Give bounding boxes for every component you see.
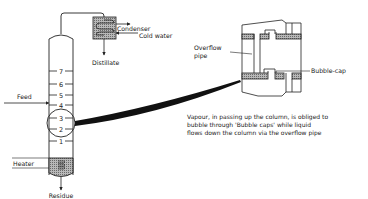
plate-7-label: 7 [59, 68, 63, 76]
plate-2-label: 2 [59, 126, 63, 134]
overflow-pipe-label: Overflow [194, 44, 222, 51]
plate-6-label: 6 [59, 81, 63, 89]
caption-line-1: Vapour, in passing up the column, is obl… [187, 113, 328, 121]
plate-5-label: 5 [59, 92, 63, 100]
feed-label: Feed [17, 93, 32, 100]
feed-inlet: Feed [4, 93, 49, 105]
bubble-cap-label: Bubble-cap [311, 67, 346, 75]
condenser: Condenser Cold water Distillate [92, 17, 173, 66]
residue-label: Residue [49, 192, 74, 199]
cold-water-label: Cold water [139, 32, 173, 39]
condenser-label: Condenser [117, 25, 151, 32]
fractional-distillation-diagram: 7 6 5 4 3 2 1 Feed Heater Residue Conden… [0, 0, 368, 199]
plate-3-label: 3 [59, 115, 63, 123]
bubble-cap-detail [242, 20, 301, 96]
caption-line-3: flows down the column via the overflow p… [187, 129, 322, 137]
caption-line-2: bubble through 'Bubble caps' while liqui… [187, 121, 311, 129]
plate-4-label: 4 [59, 102, 63, 110]
plate-1-label: 1 [59, 138, 63, 146]
overflow-pipe-label-2: pipe [194, 52, 208, 60]
heater-label: Heater [13, 160, 34, 167]
heater-section: Heater Residue [12, 158, 73, 199]
distillate-label: Distillate [92, 59, 120, 66]
